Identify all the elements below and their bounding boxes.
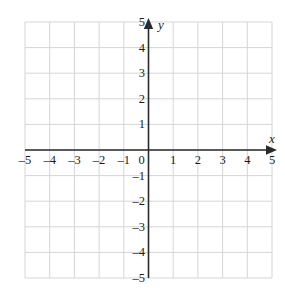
y-axis-tick-label: 1 <box>139 118 145 131</box>
x-axis-tick-label: 3 <box>219 154 225 167</box>
y-axis-tick-label: 3 <box>139 67 145 80</box>
x-axis-tick-label: –5 <box>19 154 32 167</box>
coordinate-plane: –5–4–3–2–1012345 –5–4–3–2–112345 x y <box>0 0 285 297</box>
x-axis-tick-label: –2 <box>93 154 106 167</box>
y-axis-tick-label: 4 <box>139 41 145 54</box>
y-axis-tick-label: –4 <box>133 246 146 259</box>
y-axis-tick-label: –1 <box>133 169 146 182</box>
axis-lines <box>25 18 277 278</box>
x-axis-tick-label: 2 <box>195 154 201 167</box>
x-axis-tick-label: 4 <box>244 154 250 167</box>
x-axis-name-label: x <box>269 132 275 145</box>
x-axis-tick-label: –1 <box>118 154 131 167</box>
x-axis-tick-label: 5 <box>269 154 275 167</box>
y-axis-arrowhead <box>144 18 153 29</box>
y-axis-tick-label: –5 <box>133 272 146 285</box>
y-axis-tick-label: 5 <box>139 16 145 29</box>
y-axis-tick-label: 2 <box>139 93 145 106</box>
x-axis-tick-label: –4 <box>43 154 56 167</box>
y-axis-tick-label: –3 <box>133 221 146 234</box>
x-axis-tick-label: –3 <box>68 154 81 167</box>
y-axis-name-label: y <box>158 18 164 31</box>
x-axis-tick-label: 0 <box>138 154 144 167</box>
y-axis-tick-label: –2 <box>133 195 146 208</box>
x-axis-tick-label: 1 <box>170 154 176 167</box>
